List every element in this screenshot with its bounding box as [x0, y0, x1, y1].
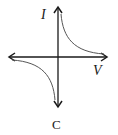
- caption-label: C: [52, 118, 61, 131]
- curve-quadrant-3: [12, 60, 55, 100]
- curve-quadrant-1: [61, 14, 104, 54]
- i-axis-label: I: [41, 8, 46, 22]
- v-axis-label: V: [93, 64, 102, 78]
